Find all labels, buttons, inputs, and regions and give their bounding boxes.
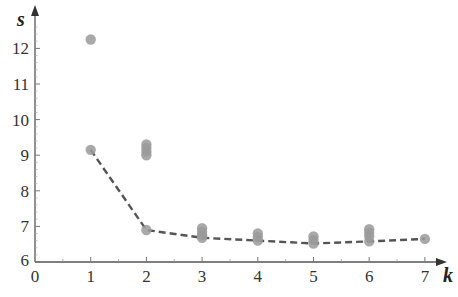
data-point [197,233,207,243]
data-point [86,145,96,155]
x-axis-label: k [443,264,453,286]
x-tick-label: 2 [142,267,151,286]
y-tick-label: 10 [12,111,29,130]
data-point [364,236,374,246]
x-tick-label: 4 [254,267,263,286]
ticks: 012345676789101112 [12,27,430,286]
data-point [141,150,151,160]
data-point [420,234,430,244]
x-tick-label: 3 [198,267,207,286]
scatter-chart: 012345676789101112 s k [0,0,458,297]
x-tick-label: 5 [309,267,318,286]
data-point [141,225,151,235]
data-point [253,235,263,245]
axes [31,5,447,266]
x-tick-label: 7 [421,267,430,286]
x-tick-label: 6 [365,267,374,286]
data-point [308,238,318,248]
x-tick-label: 0 [31,267,40,286]
y-tick-label: 7 [21,217,30,236]
y-tick-label: 6 [21,251,30,270]
y-axis-arrow-icon [31,5,39,16]
axis-labels: s k [16,8,453,286]
y-tick-label: 8 [21,182,30,201]
y-tick-label: 12 [12,39,29,58]
x-tick-label: 1 [86,267,95,286]
y-tick-label: 9 [21,146,30,165]
y-axis-label: s [16,8,25,30]
y-tick-label: 11 [13,75,29,94]
data-point [86,34,96,44]
